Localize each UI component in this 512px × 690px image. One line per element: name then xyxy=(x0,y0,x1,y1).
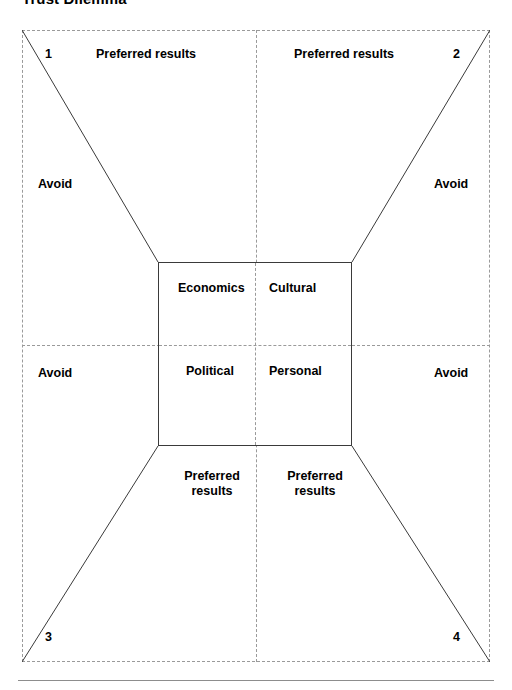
corner-number-2: 2 xyxy=(453,47,460,61)
center-quadrant-label-political: Political xyxy=(186,364,234,378)
region-label-preferred-top-left: Preferred results xyxy=(96,47,196,62)
center-box-horizontal-divider xyxy=(159,345,351,346)
corner-number-1: 1 xyxy=(45,47,52,61)
corner-number-3: 3 xyxy=(45,630,52,644)
center-quadrant-label-economics: Economics xyxy=(178,281,245,295)
region-label-preferred-top-right: Preferred results xyxy=(294,47,394,62)
trust-dilemma-diagram: Economics Cultural Political Personal Pr… xyxy=(22,30,490,662)
corner-number-4: 4 xyxy=(453,630,460,644)
center-quadrant-label-personal: Personal xyxy=(269,364,322,378)
region-label-preferred-bottom-right: Preferred results xyxy=(270,469,360,499)
region-label-avoid-right-upper: Avoid xyxy=(434,177,468,192)
page-title: Trust Dilemma xyxy=(22,0,127,8)
center-box-vertical-divider xyxy=(255,263,256,445)
center-quadrant-label-cultural: Cultural xyxy=(269,281,316,295)
footer-divider-rule xyxy=(18,680,494,681)
region-label-avoid-right-lower: Avoid xyxy=(434,366,468,381)
region-label-avoid-left-upper: Avoid xyxy=(38,177,72,192)
region-label-preferred-bottom-left: Preferred results xyxy=(167,469,257,499)
region-label-avoid-left-lower: Avoid xyxy=(38,366,72,381)
center-box: Economics Cultural Political Personal xyxy=(158,262,352,446)
